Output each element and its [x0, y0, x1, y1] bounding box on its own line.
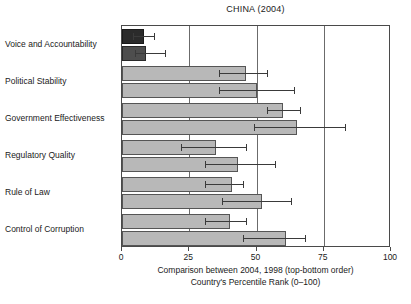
error-cap-4-1-low — [222, 198, 223, 205]
error-cap-2-0-low — [267, 107, 268, 114]
caption-line-2: Country's Percentile Rank (0–100) — [100, 277, 411, 287]
chart-title: CHINA (2004) — [121, 4, 390, 14]
error-cap-5-0-low — [205, 218, 206, 225]
error-cap-1-1-low — [219, 87, 220, 94]
error-bar-4-1 — [222, 201, 292, 202]
error-cap-2-1-high — [345, 124, 346, 131]
error-cap-4-1-high — [291, 198, 292, 205]
error-cap-5-1-low — [243, 235, 244, 242]
error-bar-0-0 — [133, 36, 155, 37]
error-bar-0-1 — [135, 53, 165, 54]
error-cap-1-0-high — [267, 70, 268, 77]
error-bar-2-0 — [267, 110, 299, 111]
chart-container: CHINA (2004) Voice and AccountabilityPol… — [0, 0, 411, 304]
error-bar-5-0 — [205, 221, 245, 222]
x-tick-label-0: 0 — [106, 252, 136, 262]
error-bar-1-0 — [219, 73, 267, 74]
error-cap-3-1-low — [205, 161, 206, 168]
error-cap-3-0-low — [181, 144, 182, 151]
category-label-2: Government Effectiveness — [5, 113, 119, 123]
plot-inner — [122, 26, 389, 246]
category-label-1: Political Stability — [5, 76, 119, 86]
x-tick-50 — [256, 247, 257, 251]
error-cap-1-0-low — [219, 70, 220, 77]
category-label-0: Voice and Accountability — [5, 39, 119, 49]
error-bar-3-1 — [205, 164, 275, 165]
x-tick-25 — [188, 247, 189, 251]
category-label-5: Control of Corruption — [5, 224, 119, 234]
error-cap-4-0-low — [205, 181, 206, 188]
gridline-50 — [257, 26, 258, 246]
plot-area — [121, 25, 390, 247]
error-cap-3-0-high — [246, 144, 247, 151]
error-bar-2-1 — [254, 127, 345, 128]
x-tick-0 — [121, 247, 122, 251]
x-tick-100 — [390, 247, 391, 251]
bar-2-0 — [122, 103, 283, 118]
category-label-3: Regulatory Quality — [5, 150, 119, 160]
error-cap-1-1-high — [294, 87, 295, 94]
x-tick-label-75: 75 — [308, 252, 338, 262]
error-cap-5-1-high — [305, 235, 306, 242]
error-bar-3-0 — [181, 147, 246, 148]
error-cap-2-0-high — [300, 107, 301, 114]
error-cap-0-0-high — [154, 33, 155, 40]
category-label-4: Rule of Law — [5, 187, 119, 197]
error-cap-2-1-low — [254, 124, 255, 131]
caption-line-1: Comparison between 2004, 1998 (top-botto… — [100, 265, 411, 275]
error-cap-0-1-low — [135, 50, 136, 57]
x-tick-label-25: 25 — [173, 252, 203, 262]
error-cap-0-0-low — [133, 33, 134, 40]
x-tick-label-100: 100 — [375, 252, 405, 262]
gridline-75 — [324, 26, 325, 246]
category-axis-labels: Voice and AccountabilityPolitical Stabil… — [5, 25, 119, 247]
error-cap-0-1-high — [165, 50, 166, 57]
x-tick-label-50: 50 — [241, 252, 271, 262]
error-cap-4-0-high — [243, 181, 244, 188]
error-bar-5-1 — [243, 238, 305, 239]
error-cap-3-1-high — [275, 161, 276, 168]
x-tick-75 — [323, 247, 324, 251]
error-bar-4-0 — [205, 184, 243, 185]
error-bar-1-1 — [219, 90, 294, 91]
error-cap-5-0-high — [246, 218, 247, 225]
